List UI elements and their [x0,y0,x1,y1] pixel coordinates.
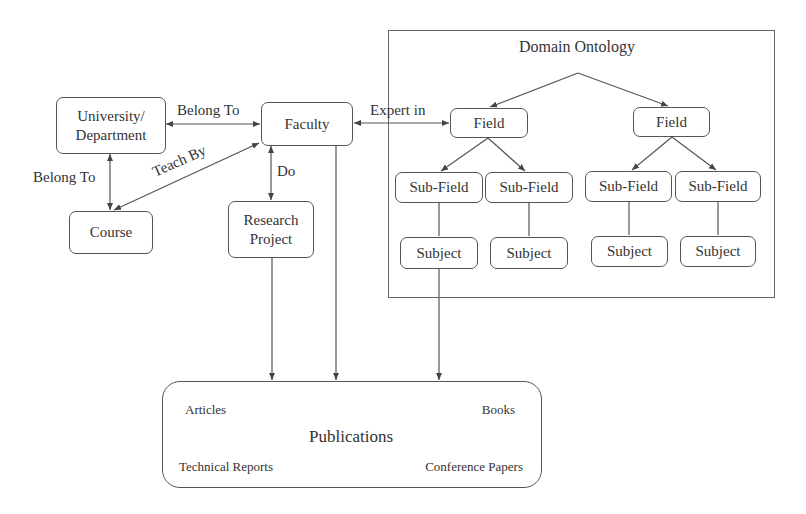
node-faculty[interactable]: Faculty [261,102,353,146]
node-label: Subject [696,242,741,261]
node-label: Field [656,113,687,132]
node-label: Subject [417,244,462,263]
publication-type-conference-papers: Conference Papers [425,459,523,475]
node-label: University/ Department [66,107,156,145]
edge-label-do: Do [277,163,295,180]
node-field-2[interactable]: Field [633,107,710,137]
node-course[interactable]: Course [69,211,153,254]
node-label: Sub-Field [599,177,658,196]
node-university-department[interactable]: University/ Department [56,97,166,154]
node-label: Course [90,223,133,242]
edge-label-expert-in: Expert in [370,102,425,119]
node-subject-2-2[interactable]: Subject [680,236,756,267]
node-label: Sub-Field [499,178,558,197]
node-subject-1-2[interactable]: Subject [490,237,568,269]
node-subject-2-1[interactable]: Subject [591,236,668,267]
node-label: Subject [507,244,552,263]
node-subfield-2-2[interactable]: Sub-Field [675,171,761,202]
node-subject-1-1[interactable]: Subject [400,237,478,269]
publication-type-articles: Articles [185,402,226,418]
node-label: Sub-Field [688,177,747,196]
node-subfield-1-1[interactable]: Sub-Field [395,172,483,203]
node-label: Faculty [285,115,330,134]
node-label: Research Project [236,211,306,249]
publications-title: Publications [309,427,393,447]
node-label: Field [474,114,505,133]
node-publications[interactable]: Articles Books Publications Technical Re… [162,381,542,488]
node-research-project[interactable]: Research Project [228,201,314,258]
node-subfield-1-2[interactable]: Sub-Field [485,172,573,203]
node-label: Sub-Field [409,178,468,197]
node-label: Subject [607,242,652,261]
domain-ontology-title: Domain Ontology [519,38,635,56]
publication-type-technical-reports: Technical Reports [179,459,273,475]
edge-label-uni-course: Belong To [33,169,95,186]
node-subfield-2-1[interactable]: Sub-Field [585,171,672,202]
edge-label-uni-faculty: Belong To [177,102,239,119]
publication-type-books: Books [482,402,515,418]
node-field-1[interactable]: Field [450,108,528,138]
